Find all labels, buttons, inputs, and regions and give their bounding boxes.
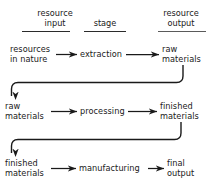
connector-finished-materials [12,122,182,153]
column-header-rule-resource-input [22,31,70,32]
column-header-stage: stage [69,18,141,28]
connector-raw-materials [12,65,184,96]
node-raw-materials-output: raw materials [162,44,201,64]
node-raw-materials-input: raw materials [5,101,44,121]
node-finished-materials-output: finished materials [160,101,199,121]
node-manufacturing: manufacturing [79,163,140,173]
node-extraction: extraction [80,49,122,59]
diagram-canvas: resource input stage resource output res… [0,0,212,189]
node-final-output: final output [167,158,194,178]
column-header-resource-output: resource output [152,8,210,28]
node-processing: processing [80,106,125,116]
node-resources-in-nature: resources in nature [10,44,50,64]
column-header-rule-stage [84,31,126,32]
column-header-rule-resource-output [158,31,206,32]
node-finished-materials-input: finished materials [5,158,44,178]
